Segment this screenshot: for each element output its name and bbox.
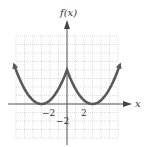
function-graph: f(x) x −2 2 −2	[0, 0, 147, 147]
x-axis-label: x	[135, 98, 141, 109]
y-tick-label-neg2: −2	[56, 116, 69, 126]
x-axis-arrow-icon	[123, 101, 132, 107]
x-tick-label-neg2: −2	[42, 108, 55, 118]
y-axis-arrow-icon	[64, 20, 70, 29]
x-tick-label-pos2: 2	[81, 108, 87, 118]
y-axis-label: f(x)	[59, 7, 77, 18]
